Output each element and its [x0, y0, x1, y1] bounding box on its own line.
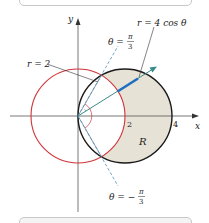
x-axis-arrow-icon: [192, 114, 199, 119]
angle-arc-small: [85, 110, 87, 112]
tick-label-4: 4: [173, 120, 178, 129]
y-axis-arrow-icon: [76, 18, 81, 25]
label-lower-theta-num: π: [138, 188, 144, 196]
label-r-2: r = 2: [27, 59, 51, 69]
label-upper-theta-num: π: [127, 33, 133, 41]
region-r-label: R: [138, 136, 147, 147]
leader-r2: [47, 64, 98, 82]
sample-ray-arrow-icon: [150, 67, 158, 73]
tick-label-2: 2: [127, 120, 132, 129]
y-axis-label: y: [67, 14, 74, 24]
label-upper-theta-den: 3: [128, 43, 132, 51]
radius-line-lower: [78, 116, 102, 157]
label-lower-theta-lhs: θ = −: [109, 192, 135, 202]
polar-diagram: y x 2 4 r = 2 r = 4 cos θ θ = π 3 θ = − …: [0, 0, 209, 223]
label-lower-theta-den: 3: [139, 198, 143, 206]
radius-line-upper: [78, 75, 102, 116]
label-r-4cos: r = 4 cos θ: [137, 18, 187, 28]
x-axis-label: x: [195, 121, 200, 131]
label-upper-theta-lhs: θ =: [108, 37, 124, 47]
